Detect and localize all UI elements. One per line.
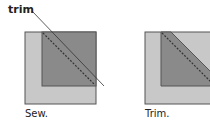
trim-caption: Trim. <box>145 108 169 119</box>
trim-callout-label: trim <box>8 3 34 16</box>
sew-caption: Sew. <box>25 108 48 119</box>
trim-panel <box>145 32 210 104</box>
quilting-diagram: trim Sew. Trim. <box>0 0 210 128</box>
sew-panel <box>25 11 104 104</box>
